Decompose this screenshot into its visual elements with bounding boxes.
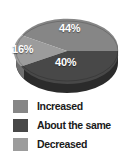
pie-chart-figure: 44% 40% 16% Increased About the same Dec…	[0, 0, 134, 162]
legend-item-increased: Increased	[13, 97, 134, 116]
chart-legend: Increased About the same Decreased	[13, 97, 134, 154]
pie-chart-graphic: 44% 40% 16%	[0, 4, 134, 94]
legend-swatch-decreased	[13, 138, 28, 151]
legend-item-about-the-same: About the same	[13, 116, 134, 135]
legend-label-increased: Increased	[37, 101, 83, 112]
legend-item-decreased: Decreased	[13, 135, 134, 154]
legend-swatch-increased	[13, 100, 28, 113]
pie-value-label-decreased: 16%	[12, 44, 33, 55]
legend-label-about-the-same: About the same	[37, 120, 111, 131]
legend-label-decreased: Decreased	[37, 139, 87, 150]
pie-value-label-about-the-same: 40%	[55, 57, 76, 68]
legend-swatch-about-the-same	[13, 119, 28, 132]
pie-value-label-increased: 44%	[59, 23, 80, 34]
